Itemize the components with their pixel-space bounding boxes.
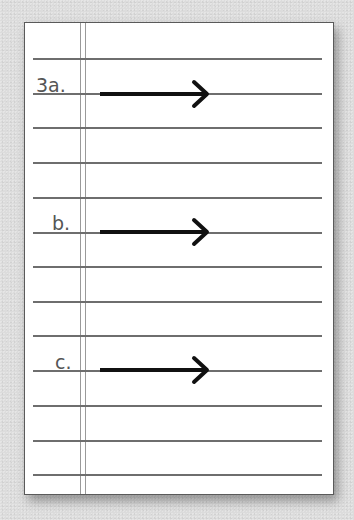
- ruled-line: [33, 301, 322, 303]
- item-label-c: c.: [55, 353, 72, 372]
- right-arrow-icon: [99, 79, 214, 109]
- ruled-line: [33, 127, 322, 129]
- ruled-line: [33, 474, 322, 476]
- lined-paper: 3a. b. c.: [24, 22, 334, 495]
- ruled-line: [33, 266, 322, 268]
- ruled-line: [33, 162, 322, 164]
- item-label-3a: 3a.: [36, 76, 66, 95]
- ruled-line: [33, 197, 322, 199]
- item-label-b: b.: [52, 214, 70, 233]
- ruled-line: [33, 440, 322, 442]
- ruled-line: [33, 405, 322, 407]
- ruled-line: [33, 335, 322, 337]
- right-arrow-icon: [99, 217, 214, 247]
- right-arrow-icon: [99, 355, 214, 385]
- ruled-line: [33, 58, 322, 60]
